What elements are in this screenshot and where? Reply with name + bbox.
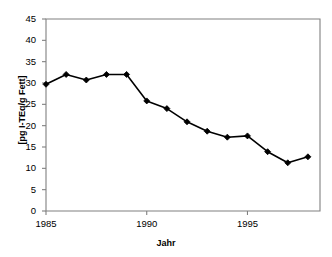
x-axis-tick-label: 1985	[26, 219, 66, 228]
y-axis-tick-label: 30	[10, 78, 36, 87]
chart-figure: [pg I-TEq/g Fett] Jahr 05101520253035404…	[0, 0, 332, 257]
y-axis-tick-label: 10	[10, 163, 36, 172]
x-axis-title: Jahr	[0, 238, 332, 248]
y-axis-tick-label: 0	[10, 206, 36, 215]
y-axis-tick-label: 35	[10, 57, 36, 66]
y-axis-tick-label: 15	[10, 142, 36, 151]
x-axis-tick-label: 1990	[127, 219, 167, 228]
y-axis-tick-label: 25	[10, 99, 36, 108]
y-axis-tick-label: 20	[10, 121, 36, 130]
y-axis-tick-label: 45	[10, 14, 36, 23]
y-axis-tick-label: 5	[10, 185, 36, 194]
plot-frame	[46, 19, 320, 211]
y-axis-tick-label: 40	[10, 35, 36, 44]
x-axis-tick-label: 1995	[227, 219, 267, 228]
